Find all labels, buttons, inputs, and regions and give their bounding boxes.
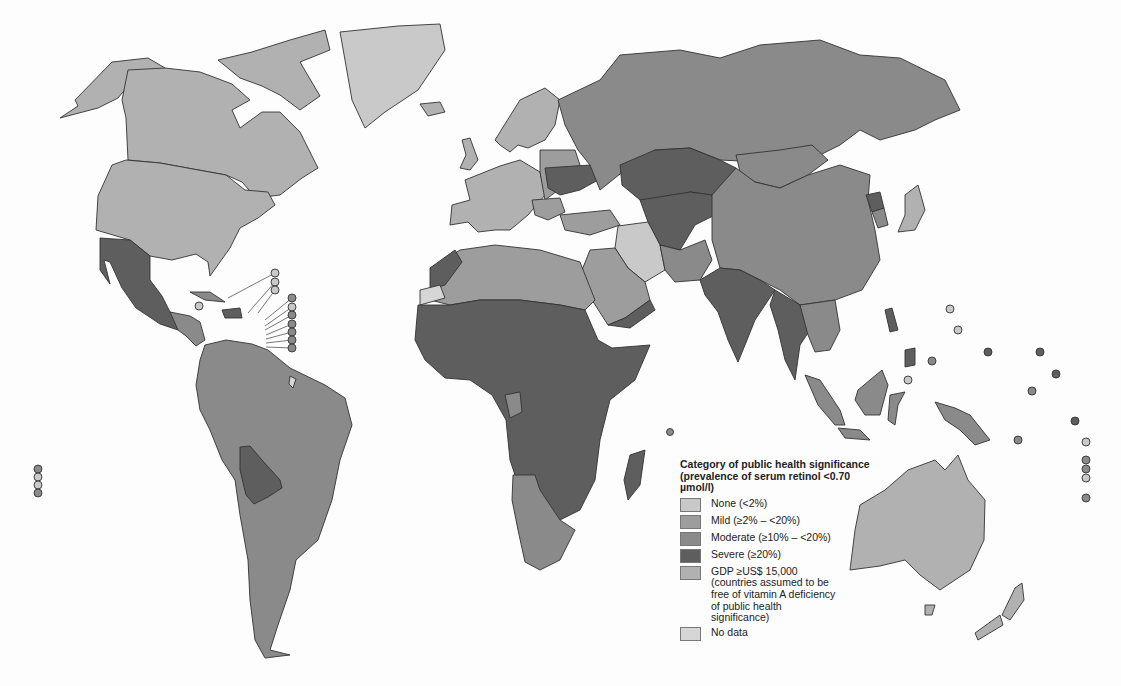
region-sumatra <box>805 375 845 425</box>
region-java <box>838 428 870 440</box>
region-turkey <box>560 210 620 235</box>
region-philippines-south <box>905 348 915 367</box>
legend-label-severe: Severe (≥20%) <box>711 549 781 561</box>
region-cuba <box>190 292 225 302</box>
region-western-europe <box>450 160 545 232</box>
legend-item-gdp: GDP ≥US$ 15,000 (countries assumed to be… <box>680 566 880 625</box>
legend-swatch-severe <box>680 549 701 563</box>
legend-label-moderate: Moderate (≥10% – <20%) <box>711 532 831 544</box>
legend-label-gdp: GDP ≥US$ 15,000 (countries assumed to be… <box>711 566 841 625</box>
legend-item-severe: Severe (≥20%) <box>680 549 880 563</box>
region-hispaniola <box>222 308 242 318</box>
region-borneo <box>855 370 888 415</box>
legend-swatch-none <box>680 498 701 512</box>
legend-swatch-no-data <box>680 627 701 641</box>
legend-item-mild: Mild (≥2% – <20%) <box>680 515 880 529</box>
legend-item-no-data: No data <box>680 627 880 641</box>
region-korea-south <box>872 208 888 228</box>
region-iceland <box>420 102 445 116</box>
region-balkans <box>532 198 565 220</box>
legend: Category of public health significance (… <box>680 459 880 644</box>
legend-swatch-moderate <box>680 532 701 546</box>
region-new-guinea <box>935 402 990 445</box>
legend-item-none: None (<2%) <box>680 498 880 512</box>
legend-label-mild: Mild (≥2% – <20%) <box>711 515 800 527</box>
region-japan <box>898 185 925 232</box>
region-ukraine <box>545 165 598 195</box>
caribbean-callouts <box>195 269 296 352</box>
region-tasmania <box>925 605 935 615</box>
legend-label-no-data: No data <box>711 627 748 639</box>
region-philippines <box>885 308 898 332</box>
region-indochina <box>800 300 840 352</box>
island-mauritius <box>667 429 674 436</box>
legend-label-none: None (<2%) <box>711 498 767 510</box>
region-uk <box>460 138 478 170</box>
legend-title: Category of public health significance (… <box>680 459 880 494</box>
region-south-america <box>196 340 352 658</box>
region-india <box>700 268 775 362</box>
region-new-zealand <box>975 583 1024 640</box>
legend-swatch-mild <box>680 515 701 529</box>
region-madagascar <box>624 450 645 500</box>
world-map <box>0 0 1121 686</box>
legend-item-moderate: Moderate (≥10% – <20%) <box>680 532 880 546</box>
region-sulawesi <box>888 392 905 425</box>
region-scandinavia <box>495 88 560 152</box>
legend-swatch-gdp <box>680 566 701 580</box>
